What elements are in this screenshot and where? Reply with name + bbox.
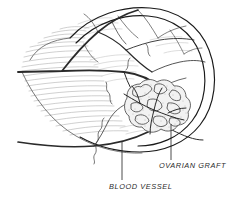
- figure-canvas: OVARIAN GRAFT BLOOD VESSEL: [0, 0, 236, 199]
- label-ovarian-graft: OVARIAN GRAFT: [159, 161, 226, 170]
- graft-lobe-outlines: [125, 80, 191, 133]
- anatomical-figure: OVARIAN GRAFT BLOOD VESSEL: [0, 0, 236, 199]
- label-blood-vessel: BLOOD VESSEL: [109, 182, 172, 191]
